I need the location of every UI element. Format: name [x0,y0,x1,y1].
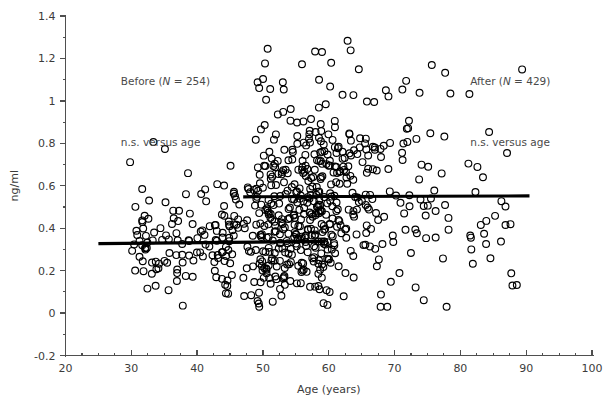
regression-line-after [243,196,529,197]
x-tick-label: 30 [124,362,138,375]
y-tick-label: 0.6 [38,180,56,193]
x-tick-label: 60 [322,362,336,375]
x-tick-label: 100 [582,362,603,375]
y-tick-label: 0 [49,307,56,320]
annotation-after-label: After (N = 429) [470,75,550,87]
y-tick-label: 1.4 [38,10,56,23]
y-tick-label: 0.8 [38,137,56,150]
x-tick-label: 80 [453,362,467,375]
y-axis-title: ng/ml [8,170,21,201]
x-tick-label: 20 [59,362,73,375]
scatter-plot-figure: 2030405060708090100 -0.200.20.40.60.811.… [0,0,607,407]
y-tick-label: 1 [49,95,56,108]
annotation-before-label: Before (N = 254) [121,75,210,87]
y-tick-label: 0.2 [38,265,56,278]
annotation-after-significance: n.s. versus age [470,136,550,148]
x-tick-label: 40 [190,362,204,375]
chart-canvas: 2030405060708090100 -0.200.20.40.60.811.… [0,0,607,407]
x-tick-label: 70 [388,362,402,375]
y-tick-label: 0.4 [38,222,56,235]
x-tick-label: 90 [519,362,533,375]
y-tick-label: -0.2 [34,350,55,363]
annotation-before-significance: n.s. versus age [121,136,201,148]
y-tick-label: 1.2 [38,52,56,65]
x-axis-title: Age (years) [297,383,361,396]
x-tick-label: 50 [256,362,270,375]
